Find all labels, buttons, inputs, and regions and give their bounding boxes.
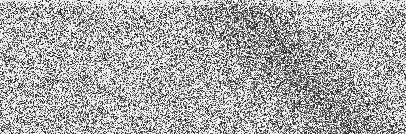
noise-texture [0, 0, 406, 134]
noise-image: Grayscale speckle/noise texture with a f… [0, 0, 406, 134]
